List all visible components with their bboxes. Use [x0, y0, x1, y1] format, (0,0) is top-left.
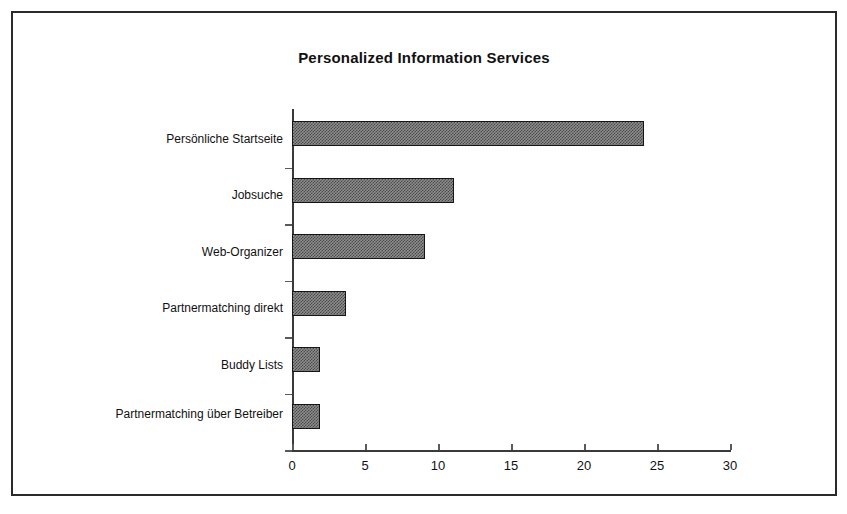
category-label: Web-Organizer — [42, 245, 292, 260]
chart-frame: Personalized Information Services Persön… — [11, 11, 837, 496]
y-axis-tick — [285, 168, 292, 170]
bar-band — [292, 168, 730, 225]
x-axis-line: 051015202530 — [292, 450, 731, 452]
y-axis-tick — [285, 281, 292, 283]
bar-band — [292, 281, 730, 338]
x-axis-tick-label: 25 — [637, 458, 677, 473]
y-axis-tick — [285, 224, 292, 226]
category-label: Jobsuche — [42, 188, 292, 203]
category-label: Partnermatching über Betreiber — [42, 407, 292, 422]
x-axis-tick-label: 30 — [710, 458, 750, 473]
chart-page: Personalized Information Services Persön… — [0, 0, 847, 514]
bar[interactable] — [292, 347, 320, 372]
plot-area — [292, 111, 730, 450]
x-axis-tick-label: 15 — [491, 458, 531, 473]
x-axis-tick-label: 0 — [272, 458, 312, 473]
y-axis-tick — [285, 394, 292, 396]
bar[interactable] — [292, 291, 346, 316]
bar-band — [292, 111, 730, 168]
y-axis-tick — [285, 337, 292, 339]
category-label: Partnermatching direkt — [42, 301, 292, 316]
bar[interactable] — [292, 234, 425, 259]
x-axis-tick — [730, 444, 732, 450]
category-label: Buddy Lists — [42, 358, 292, 373]
category-axis-labels: Persönliche StartseiteJobsucheWeb-Organi… — [42, 111, 292, 450]
chart-title: Personalized Information Services — [13, 49, 835, 66]
x-axis-tick-label: 5 — [345, 458, 385, 473]
bar[interactable] — [292, 178, 454, 203]
x-axis-tick-label: 10 — [418, 458, 458, 473]
bar[interactable] — [292, 121, 644, 146]
category-label: Persönliche Startseite — [42, 132, 292, 147]
bar[interactable] — [292, 404, 320, 429]
y-axis-tick — [285, 450, 292, 452]
bar-band — [292, 394, 730, 451]
bar-band — [292, 337, 730, 394]
bar-band — [292, 224, 730, 281]
x-axis-tick-label: 20 — [564, 458, 604, 473]
